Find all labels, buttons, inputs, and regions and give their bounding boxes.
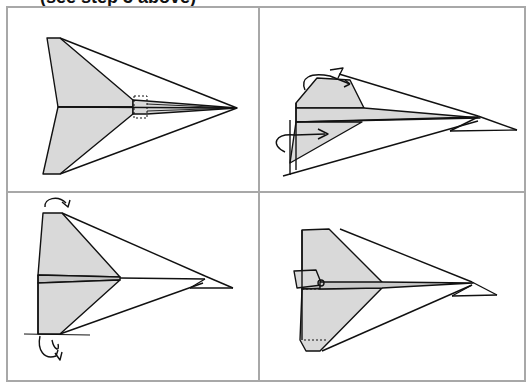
panel-2-airplane — [276, 68, 517, 176]
airplane-folding-diagram — [0, 0, 531, 386]
panel-3-airplane — [24, 198, 233, 360]
panel-1-airplane — [43, 38, 237, 174]
panel-4-airplane — [294, 229, 497, 351]
